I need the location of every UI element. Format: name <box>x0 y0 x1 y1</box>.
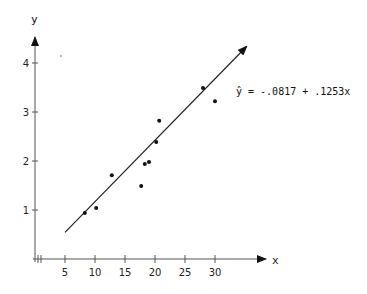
data-point <box>94 206 98 210</box>
data-point <box>110 173 114 177</box>
y-tick-label: 2 <box>23 156 29 167</box>
data-point <box>201 86 205 90</box>
data-points <box>83 86 217 215</box>
regression-line <box>65 46 247 232</box>
y-tick-label: 3 <box>23 107 29 118</box>
y-axis-label: y <box>31 13 38 26</box>
regression-line-path <box>65 46 247 232</box>
data-point <box>213 99 217 103</box>
x-tick-label: 30 <box>209 267 222 278</box>
data-point <box>154 140 158 144</box>
y-ticks: 1234 <box>23 58 38 216</box>
data-point <box>157 119 161 123</box>
x-tick-label: 25 <box>179 267 192 278</box>
speck <box>60 55 62 57</box>
regression-equation: ŷ = -.0817 + .1253x <box>236 86 350 97</box>
x-tick-label: 15 <box>119 267 132 278</box>
x-ticks: 51015202530 <box>62 255 222 278</box>
scatter-plot: y x 51015202530 1234 ŷ = -.0817 + .1253x <box>0 0 367 294</box>
data-point <box>147 160 151 164</box>
x-axis-label: x <box>272 254 279 267</box>
x-tick-label: 10 <box>89 267 102 278</box>
x-tick-label: 20 <box>149 267 162 278</box>
y-tick-label: 1 <box>23 205 29 216</box>
data-point <box>139 184 143 188</box>
y-tick-label: 4 <box>23 58 29 69</box>
data-point <box>83 211 87 215</box>
x-tick-label: 5 <box>62 267 68 278</box>
data-point <box>143 162 147 166</box>
